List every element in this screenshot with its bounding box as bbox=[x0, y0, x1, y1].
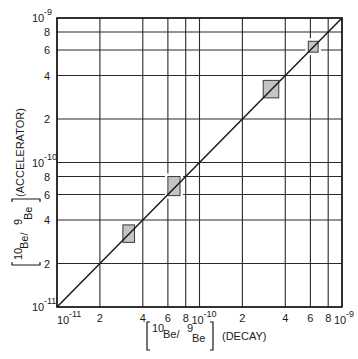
y-tick-label: 2 bbox=[44, 113, 50, 125]
y-tick-exponent: -10 bbox=[44, 152, 57, 162]
y-title-suffix: (ACCELERATOR) bbox=[14, 108, 26, 197]
x-tick-exponent: -9 bbox=[346, 309, 354, 319]
x-tick-exponent: -10 bbox=[204, 309, 217, 319]
y-tick-label: 10 bbox=[32, 301, 44, 313]
x-tick-labels: 10-11246810-10246810-9 bbox=[57, 309, 354, 326]
x-tick-label: 2 bbox=[239, 312, 245, 324]
x-tick-exponent: -11 bbox=[69, 309, 81, 319]
x-title-main: Be/ bbox=[163, 328, 180, 340]
y-tick-label: 10 bbox=[32, 157, 44, 169]
x-tick-label: 4 bbox=[140, 312, 146, 324]
y-tick-labels: 10-11246810-10246810-9 bbox=[32, 7, 57, 313]
y-tick-label: 8 bbox=[44, 171, 50, 183]
log-log-chart: 10-11246810-10246810-9 10-11246810-10246… bbox=[0, 0, 358, 359]
x-tick-label: 10 bbox=[192, 314, 204, 326]
x-tick-label: 4 bbox=[282, 312, 288, 324]
x-tick-label: 10 bbox=[57, 314, 69, 326]
x-tick-label: 10 bbox=[334, 314, 346, 326]
y-tick-label: 4 bbox=[44, 214, 50, 226]
y-tick-exponent: -11 bbox=[44, 296, 56, 306]
x-title-sub: Be bbox=[192, 332, 205, 344]
y-tick-label: 4 bbox=[44, 70, 50, 82]
y-axis-title: 10 Be/ 9 Be (ACCELERATOR) bbox=[12, 108, 40, 265]
y-tick-label: 6 bbox=[44, 189, 50, 201]
y-tick-label: 2 bbox=[44, 258, 50, 270]
y-tick-exponent: -9 bbox=[44, 7, 52, 17]
x-tick-label: 6 bbox=[307, 312, 313, 324]
y-tick-label: 8 bbox=[44, 26, 50, 38]
y-title-sub: Be bbox=[22, 207, 34, 220]
x-title-suffix: (DECAY) bbox=[222, 330, 266, 342]
x-tick-label: 8 bbox=[325, 312, 331, 324]
y-title-main: Be/ bbox=[18, 232, 30, 249]
x-tick-label: 2 bbox=[97, 312, 103, 324]
x-tick-label: 6 bbox=[165, 312, 171, 324]
y-tick-label: 10 bbox=[32, 12, 44, 24]
x-axis-title: 10 Be/ 9 Be (DECAY) bbox=[147, 322, 266, 350]
y-tick-label: 6 bbox=[44, 44, 50, 56]
